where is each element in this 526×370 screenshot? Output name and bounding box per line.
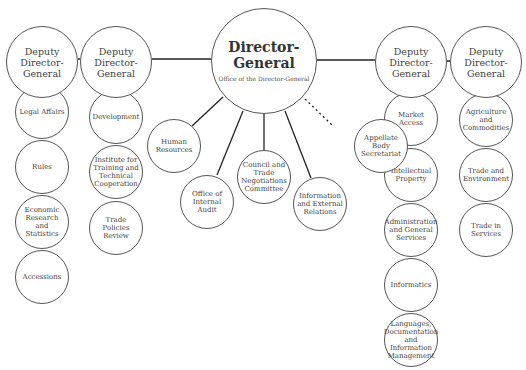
- line-dg-appellate: [305, 99, 332, 125]
- unit-node: Rules: [15, 140, 69, 194]
- deputy-director-general-node-label: Deputy Director-General: [451, 46, 521, 79]
- unit-node: Administration and General Services: [384, 203, 438, 257]
- unit-node: Languages, Documentation and Information…: [384, 313, 438, 367]
- unit-node: Trade in Services: [459, 203, 513, 257]
- unit-node-label: Administration and General Services: [383, 218, 440, 242]
- dg-unit-node-label: Human Resources: [148, 138, 200, 154]
- unit-node-label: Economic Research and Statistics: [16, 206, 68, 238]
- unit-node-label: Institute for Training and Technical Coo…: [90, 156, 142, 188]
- unit-node-label: Trade and Environment: [460, 167, 512, 183]
- unit-node-label: Rules: [30, 163, 54, 171]
- unit-node: Institute for Training and Technical Coo…: [89, 145, 143, 199]
- deputy-director-general-node-label: Deputy Director-General: [7, 46, 77, 79]
- deputy-director-general-node: Deputy Director-General: [375, 26, 447, 98]
- deputy-director-general-node-label: Deputy Director-General: [81, 46, 151, 79]
- unit-node-label: Accessions: [21, 273, 64, 281]
- unit-node: Trade Policies Review: [89, 201, 143, 255]
- director-general-node: Director-General Office of the Director-…: [211, 8, 317, 114]
- dg-unit-node-label: Information and External Relations: [294, 192, 346, 216]
- dg-unit-node: Human Resources: [147, 119, 201, 173]
- deputy-director-general-node: Deputy Director-General: [80, 26, 152, 98]
- dg-unit-node-label: Council and Trade Negotiations Committee: [238, 161, 290, 193]
- unit-node-label: Informatics: [389, 281, 434, 289]
- unit-node: Informatics: [384, 258, 438, 312]
- unit-node-label: Trade in Services: [460, 222, 512, 238]
- unit-node: Economic Research and Statistics: [15, 195, 69, 249]
- deputy-director-general-node-label: Deputy Director-General: [376, 46, 446, 79]
- director-general-title: Director-General: [212, 39, 316, 71]
- unit-node: Accessions: [15, 250, 69, 304]
- unit-node-label: Languages, Documentation and Information…: [382, 320, 440, 360]
- unit-node: Agriculture and Commodities: [459, 93, 513, 147]
- deputy-director-general-node: Deputy Director-General: [450, 26, 522, 98]
- deputy-director-general-node: Deputy Director-General: [6, 26, 78, 98]
- dg-unit-node: Appellate Body Secretariat: [354, 119, 408, 173]
- dg-unit-node: Office of Internal Audit: [180, 175, 234, 229]
- dg-unit-node: Information and External Relations: [293, 177, 347, 231]
- director-general-subtitle: Office of the Director-General: [219, 75, 310, 83]
- unit-node: Trade and Environment: [459, 148, 513, 202]
- dg-unit-node: Council and Trade Negotiations Committee: [237, 150, 291, 204]
- unit-node: Development: [89, 90, 143, 144]
- line-dg-human-resources: [192, 97, 223, 126]
- unit-node-label: Legal Affairs: [17, 108, 66, 116]
- dg-unit-node-label: Office of Internal Audit: [181, 190, 233, 214]
- unit-node-label: Trade Policies Review: [90, 216, 142, 240]
- unit-node-label: Development: [91, 113, 142, 121]
- dg-unit-node-label: Appellate Body Secretariat: [355, 134, 407, 158]
- unit-node-label: Agriculture and Commodities: [460, 108, 512, 132]
